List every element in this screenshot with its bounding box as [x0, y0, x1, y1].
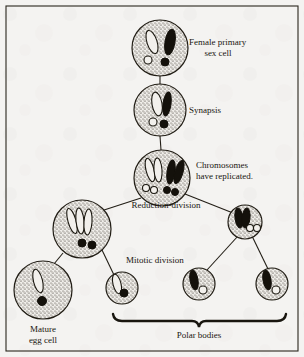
- centromere-black: [78, 239, 86, 247]
- label-chromosomes-replicated-line1: Chromosomes: [196, 160, 248, 170]
- polar-body-cell-3: [256, 268, 288, 300]
- first-polar-body-cell: [228, 205, 262, 239]
- cell-membrane: [256, 268, 288, 300]
- centromere-white: [149, 118, 157, 126]
- label-chromosomes-replicated-line2: have replicated.: [196, 171, 253, 181]
- diagram-canvas: Female primary sex cell Synapsis Chromos…: [0, 0, 304, 357]
- centromere-white: [247, 225, 254, 232]
- label-reduction-division: Reduction-division: [132, 200, 201, 210]
- polar-body-cell-1: [106, 272, 138, 304]
- label-mitotic-division: Mitotic division: [126, 255, 184, 265]
- label-synapsis: Synapsis: [189, 105, 222, 115]
- centromere-white: [144, 56, 152, 64]
- centromere-black: [161, 58, 169, 66]
- centromere-white: [254, 225, 261, 232]
- label-female-primary-sex-cell-line1: Female primary: [189, 37, 247, 47]
- replicated-chromosomes-cell: [134, 150, 190, 206]
- label-polar-bodies: Polar bodies: [177, 330, 222, 340]
- centromere-black: [160, 120, 168, 128]
- mature-egg-cell: [14, 261, 72, 319]
- centromere-white: [272, 286, 280, 294]
- centromere-white: [151, 187, 158, 194]
- cell-membrane: [132, 20, 188, 76]
- centromere-black: [120, 289, 128, 297]
- secondary-oocyte-cell: [53, 200, 111, 258]
- centromere-black: [88, 241, 96, 249]
- female-primary-sex-cell: [132, 20, 188, 76]
- label-female-primary-sex-cell-line2: sex cell: [204, 48, 232, 58]
- cell-membrane: [183, 268, 215, 300]
- synapsis-cell: [134, 84, 186, 136]
- centromere-black: [38, 297, 47, 306]
- polar-body-cell-2: [183, 268, 215, 300]
- label-mature-egg-cell-line1: Mature: [30, 324, 56, 334]
- label-mature-egg-cell-line2: egg cell: [29, 335, 58, 345]
- oogenesis-diagram: Female primary sex cell Synapsis Chromos…: [0, 0, 304, 357]
- centromere-black: [172, 189, 179, 196]
- centromere-black: [164, 187, 171, 194]
- centromere-white: [199, 286, 207, 294]
- centromere-white: [143, 185, 150, 192]
